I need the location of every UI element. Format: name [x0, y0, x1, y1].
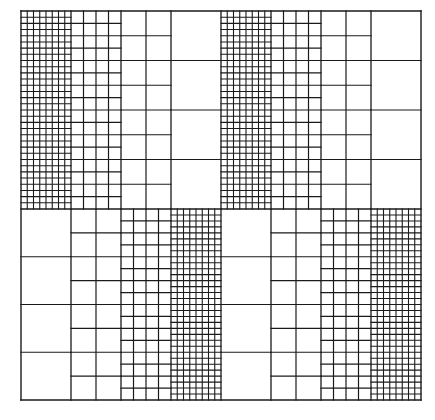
grid-canvas: [0, 0, 435, 420]
multi-resolution-grid-diagram: [0, 0, 435, 420]
